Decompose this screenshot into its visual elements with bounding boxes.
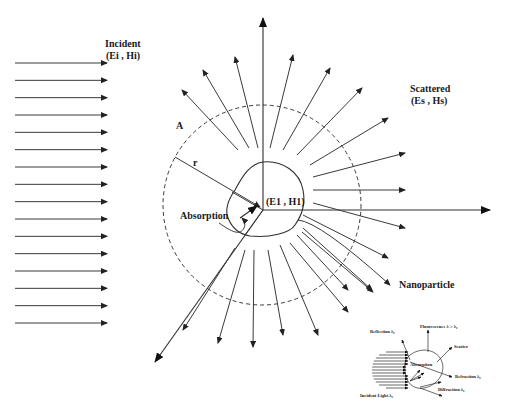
scattered-title: Scattered — [410, 83, 451, 94]
inset-refraction-label: Refraction λ₀ — [455, 374, 481, 379]
inset-diffraction-label: Diffraction λ₀ — [438, 387, 465, 392]
inset-absorption-label: Absorption — [410, 362, 433, 367]
incident-fields: (Ei , Hi) — [106, 50, 140, 62]
radius-label: r — [193, 157, 198, 168]
absorption-arrow — [240, 206, 257, 218]
inset-incident-light-label: Incident Light λ₀ — [360, 393, 394, 398]
nanoparticle-label: Nanoparticle — [399, 279, 455, 290]
inset-incident-rays — [372, 352, 408, 388]
absorption-label: Absorption — [180, 210, 229, 221]
internal-field-label: (E1 , H1) — [266, 196, 305, 208]
wedge-line-upper — [232, 192, 263, 210]
incident-arrows — [15, 63, 107, 323]
inset-light-interaction-diagram: Reflection λ₀ Fluorescence λ > λ₀ Scatte… — [360, 324, 481, 398]
dashed-boundary-circle — [163, 105, 361, 305]
area-label: A — [176, 120, 184, 131]
inset-fluorescence-label: Fluorescence λ > λ₀ — [420, 324, 458, 329]
radius-line — [175, 157, 260, 207]
incident-title: Incident — [105, 38, 141, 49]
nanoparticle-scattering-diagram: Incident (Ei , Hi) — [0, 0, 505, 413]
incident-label: Incident (Ei , Hi) — [105, 38, 141, 62]
inset-reflection-label: Reflection λ₀ — [370, 329, 395, 334]
inset-scatter-label: Scatter — [454, 344, 468, 349]
scattered-fields: (Es , Hs) — [411, 95, 447, 107]
wedge-line-lower — [245, 210, 263, 235]
